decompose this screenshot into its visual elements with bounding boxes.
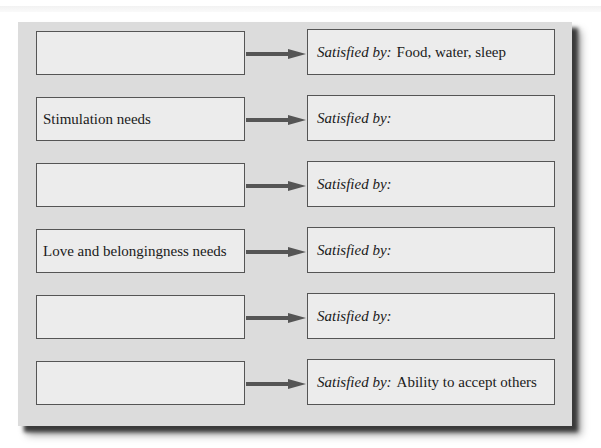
satisfied-by-label: Satisfied by: (317, 44, 392, 61)
need-row-5: Satisfied by: (18, 295, 572, 343)
satisfied-by-label: Satisfied by: (317, 308, 392, 325)
need-row-2: Stimulation needs Satisfied by: (18, 97, 572, 145)
satisfier-box: Satisfied by: (307, 293, 555, 339)
satisfied-by-label: Satisfied by: (317, 242, 392, 259)
page-edge-strip (0, 6, 601, 12)
satisfier-box: Satisfied by: (307, 95, 555, 141)
satisfier-text: Food, water, sleep (397, 44, 506, 61)
arrow-right-icon (246, 379, 306, 389)
need-box: Love and belongingness needs (36, 229, 245, 273)
need-label: Stimulation needs (43, 111, 151, 128)
satisfier-box: Satisfied by: (307, 161, 555, 207)
satisfier-box: Satisfied by: (307, 227, 555, 273)
satisfier-text: Ability to accept others (397, 374, 537, 391)
satisfier-box: Satisfied by:Ability to accept others (307, 359, 555, 405)
arrow-right-icon (246, 181, 306, 191)
arrow-right-icon (246, 115, 306, 125)
diagram-panel: Satisfied by:Food, water, sleep Stimulat… (18, 22, 572, 426)
need-row-3: Satisfied by: (18, 163, 572, 211)
need-label: Love and belongingness needs (43, 243, 227, 260)
need-box (36, 31, 245, 75)
arrow-right-icon (246, 247, 306, 257)
satisfied-by-label: Satisfied by: (317, 110, 392, 127)
need-row-1: Satisfied by:Food, water, sleep (18, 31, 572, 79)
satisfied-by-label: Satisfied by: (317, 176, 392, 193)
need-box (36, 163, 245, 207)
satisfied-by-label: Satisfied by: (317, 374, 392, 391)
need-box (36, 361, 245, 405)
need-box: Stimulation needs (36, 97, 245, 141)
need-box (36, 295, 245, 339)
need-row-6: Satisfied by:Ability to accept others (18, 361, 572, 409)
arrow-right-icon (246, 49, 306, 59)
satisfier-box: Satisfied by:Food, water, sleep (307, 29, 555, 75)
need-row-4: Love and belongingness needs Satisfied b… (18, 229, 572, 277)
arrow-right-icon (246, 313, 306, 323)
